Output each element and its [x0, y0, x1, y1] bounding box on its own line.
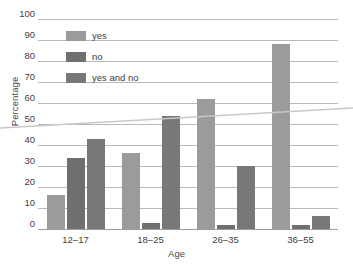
bar-group: [197, 19, 255, 229]
y-tick-label-50: 50: [9, 114, 35, 124]
bar-group: [272, 19, 330, 229]
bar: [87, 139, 105, 229]
bar: [197, 99, 215, 229]
bar-chart: Percentage 0102030405060708090100 12–171…: [0, 0, 353, 270]
y-tick-label-70: 70: [9, 72, 35, 82]
x-axis-title: Age: [0, 248, 353, 259]
x-tick-label: 12–17: [41, 234, 111, 245]
y-tick-label-10: 10: [9, 198, 35, 208]
legend-swatch-icon: [66, 73, 86, 83]
bar: [217, 225, 235, 229]
y-tick-label-40: 40: [9, 135, 35, 145]
y-tick-label-30: 30: [9, 156, 35, 166]
bar: [237, 166, 255, 229]
y-tick-label-100: 100: [9, 9, 35, 19]
bar: [272, 44, 290, 229]
legend-label: yes and no: [92, 72, 138, 84]
legend-swatch-icon: [66, 31, 86, 41]
bar-group: [122, 19, 180, 229]
x-tick-label: 18–25: [116, 234, 186, 245]
y-tick-label-80: 80: [9, 51, 35, 61]
y-tick-label-90: 90: [9, 30, 35, 40]
bar: [67, 158, 85, 229]
bar: [292, 225, 310, 229]
legend-swatch-icon: [66, 52, 86, 62]
bar: [162, 116, 180, 229]
bar: [312, 216, 330, 229]
legend-label: no: [92, 51, 103, 63]
x-tick-label: 26–35: [191, 234, 261, 245]
bar: [142, 223, 160, 229]
legend-label: yes: [92, 30, 107, 42]
y-tick-label-60: 60: [9, 93, 35, 103]
y-tick-label-0: 0: [9, 219, 35, 229]
bar: [47, 195, 65, 229]
gridline-0: [38, 229, 338, 230]
y-tick-label-20: 20: [9, 177, 35, 187]
bar-series-layer: [38, 19, 338, 229]
bar: [122, 153, 140, 229]
x-tick-label: 36–55: [266, 234, 336, 245]
